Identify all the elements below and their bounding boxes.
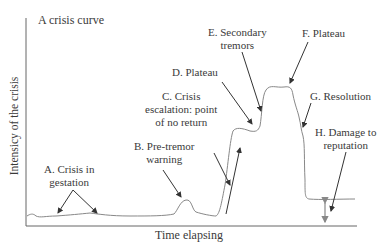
arrow-d [222, 82, 252, 124]
label-h: H. Damage to reputation [315, 126, 376, 152]
arrow-g [303, 103, 311, 127]
arrow-a2 [73, 190, 97, 213]
arrow-h [331, 152, 346, 211]
x-axis-label: Time elapsing [155, 228, 223, 243]
label-a: A. Crisis in gestation [44, 163, 94, 189]
label-b: B. Pre-tremor warning [134, 140, 194, 166]
arrow-a1 [58, 190, 73, 213]
label-f: F. Plateau [302, 27, 345, 40]
chart-title: A crisis curve [38, 13, 104, 28]
arrow-b [163, 170, 181, 197]
label-e: E. Secondary tremors [208, 26, 267, 52]
arrow-f [290, 42, 308, 83]
label-d: D. Plateau [172, 66, 218, 79]
y-axis-label: Intensicy of the crisis [8, 76, 20, 176]
arrow-e [242, 52, 261, 111]
label-g: G. Resolution [310, 90, 371, 103]
label-c: C. Crisis escalation: point of no return [145, 90, 217, 129]
